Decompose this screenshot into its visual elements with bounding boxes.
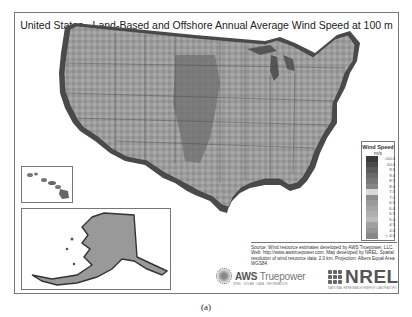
aws-tagline: WIND · SOLAR · DATA · INFORMATION (233, 282, 287, 286)
legend-label: 4.5 (381, 222, 395, 227)
hawaii-map (22, 167, 72, 202)
nrel-logo: NREL (328, 266, 399, 288)
wind-speed-legend: Wind Speed m/s >10.0 10.0 9.5 9.0 8.5 8.… (361, 141, 395, 241)
legend-label: 8.0 (381, 184, 395, 189)
legend-label: 10.0 (381, 162, 395, 167)
legend-label: 9.5 (381, 167, 395, 172)
legend-label: 5.0 (381, 217, 395, 222)
legend-label: 6.0 (381, 206, 395, 211)
legend-label: < 4.0 (381, 233, 395, 238)
legend-item: < 4.0 (366, 233, 395, 239)
legend-label: 4.0 (381, 228, 395, 233)
source-note: Source: Wind resource estimates develope… (251, 242, 397, 267)
nrel-grid-icon (328, 270, 342, 284)
legend-label: 9.0 (381, 173, 395, 178)
aws-name2: Truepower (260, 271, 306, 282)
legend-label: 6.5 (381, 200, 395, 205)
legend-label: 5.5 (381, 211, 395, 216)
alaska-map (22, 209, 170, 289)
legend-label: >10.0 (381, 156, 395, 161)
hawaii-inset (21, 166, 73, 203)
legend-label: 7.5 (381, 189, 395, 194)
nrel-tagline: NATIONAL RENEWABLE ENERGY LABORATORY (328, 286, 397, 290)
legend-label: 8.5 (381, 178, 395, 183)
nrel-name: NREL (345, 266, 399, 288)
alaska-inset (21, 208, 171, 290)
aws-sunburst-icon (216, 268, 232, 284)
legend-rows: >10.0 10.0 9.5 9.0 8.5 8.0 7.5 7.0 6.5 6… (366, 156, 395, 239)
figure-caption: (a) (0, 302, 412, 312)
map-frame: United States - Land-Based and Offshore … (14, 12, 399, 294)
legend-swatch (366, 233, 378, 239)
legend-label: 7.0 (381, 195, 395, 200)
logos: AWS Truepower WIND · SOLAR · DATA · INFO… (216, 266, 396, 292)
aws-name: AWS (235, 271, 257, 282)
